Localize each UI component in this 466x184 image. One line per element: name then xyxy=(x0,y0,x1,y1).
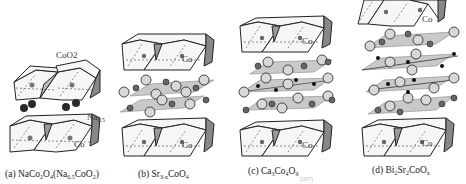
co-label-c-top: Co xyxy=(302,36,313,46)
panel-a: CoO2 Na0.5 Co (a) NaCo2O4(Na0.5CoO2) xyxy=(0,0,115,184)
panel-d: Co Co (d) Bi2Sr2CoOx xyxy=(350,0,466,184)
faint-caption-reference: [207] xyxy=(300,176,313,182)
co-label-b-top: Co xyxy=(182,54,193,64)
caption-d: (d) Bi2Sr2CoOx xyxy=(372,165,430,176)
bi2sr2coox-structure-diagram xyxy=(350,0,466,184)
caption-b: (b) Sr3-xCoO4 xyxy=(138,169,189,180)
co-label-c-bottom: Co xyxy=(302,140,313,150)
naco2o4-structure-diagram xyxy=(0,0,115,184)
panel-b: Co Co (b) Sr3-xCoO4 xyxy=(110,0,225,184)
caption-a: (a) NaCo2O4(Na0.5CoO2) xyxy=(5,169,99,180)
caption-c: (c) Ca3Co4O9 xyxy=(248,166,298,177)
coo2-label: CoO2 xyxy=(56,50,78,60)
sr3cooo4-structure-diagram xyxy=(110,0,225,184)
ca3co4o9-structure-diagram xyxy=(228,0,343,184)
co-label-d-bottom: Co xyxy=(422,138,433,148)
co-label-b-bottom: Co xyxy=(182,140,193,150)
co-label-a: Co xyxy=(74,139,85,149)
na-label: Na0.5 xyxy=(87,112,105,123)
panel-c: Co Co (c) Ca3Co4O9 xyxy=(228,0,343,184)
co-label-d-top: Co xyxy=(422,14,433,24)
